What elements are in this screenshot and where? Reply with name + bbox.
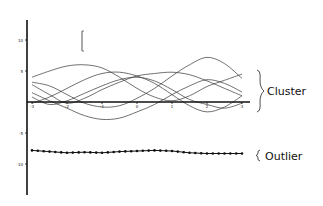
outlier-point [159, 149, 162, 152]
outlier-point [188, 152, 191, 155]
x-tick-label: 0 [136, 104, 139, 109]
outlier-point [54, 151, 57, 154]
outlier-point [229, 152, 232, 155]
line-cluster-1 [32, 65, 242, 101]
outlier-point [48, 150, 51, 153]
x-tick-label: -3 [30, 104, 34, 109]
line-cluster-3 [32, 80, 242, 120]
outlier-point [182, 151, 185, 154]
x-tick-label: 1 [171, 104, 174, 109]
y-tick-label: -10 [16, 162, 23, 167]
y-tick-label: 5 [20, 69, 23, 74]
scale-bar [82, 31, 84, 51]
outlier-point [130, 150, 133, 153]
y-tick-label: -5 [19, 131, 23, 136]
outlier-point [235, 152, 238, 155]
outlier-line [31, 149, 244, 155]
outlier-point [112, 151, 115, 154]
outlier-point [89, 151, 92, 154]
outlier-point [212, 152, 215, 155]
outlier-point [107, 151, 110, 154]
outlier-point [177, 150, 180, 153]
outlier-point [124, 150, 127, 153]
outlier-point [31, 149, 34, 152]
cluster-brace-icon [257, 70, 264, 112]
outlier-point [136, 150, 139, 153]
outlier-point [217, 152, 220, 155]
x-tick-label: -1 [100, 104, 104, 109]
outlier-point [142, 150, 145, 153]
y-tick-label: 10 [18, 38, 24, 43]
x-tick-label: 2 [206, 104, 209, 109]
outlier-point [147, 149, 150, 152]
outlier-point [37, 150, 40, 153]
outlier-point [194, 152, 197, 155]
outlier-point [77, 151, 80, 154]
outlier-point [42, 150, 45, 153]
outlier-point [60, 151, 63, 154]
cluster-label: Cluster [267, 85, 307, 98]
outlier-point [200, 152, 203, 155]
x-tick-label: 3 [241, 104, 244, 109]
outlier-point [95, 151, 98, 154]
outlier-point [118, 150, 121, 153]
outlier-point [165, 150, 168, 153]
outlier-label: Outlier [265, 150, 303, 163]
outlier-brace-icon [256, 150, 260, 161]
outlier-point [171, 150, 174, 153]
outlier-point [206, 152, 209, 155]
time-series-chart: -3-2-10123 105-5-10 Cluster Outlier [0, 0, 323, 206]
outlier-point [241, 152, 244, 155]
outlier-point [66, 152, 69, 155]
y-axis-ticks: 105-5-10 [16, 38, 27, 167]
x-tick-label: -2 [65, 104, 69, 109]
outlier-point [153, 149, 156, 152]
outlier-point [101, 152, 104, 155]
outlier-point [72, 151, 75, 154]
outlier-point [83, 151, 86, 154]
outlier-point [223, 152, 226, 155]
cluster-lines [32, 57, 242, 119]
